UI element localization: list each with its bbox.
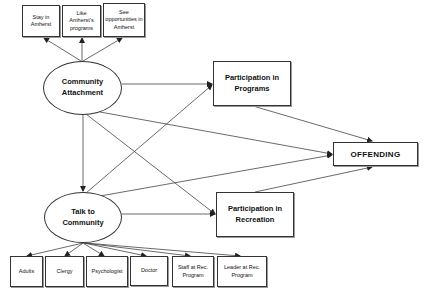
indicator-like-amherst-programs: Like Amherst's programs xyxy=(62,5,101,37)
indicator-label: Stay in Amherst xyxy=(31,14,51,29)
indicator-psychologist: Psychologist xyxy=(86,256,128,287)
mediator-participation-recreation: Participation in Recreation xyxy=(216,192,294,237)
mediator-label: Participation in Programs xyxy=(225,73,279,94)
edge-attach-see xyxy=(83,38,122,61)
indicator-leader-rec-program: Leader at Rec. Program xyxy=(217,256,267,287)
edge-talk-offending xyxy=(100,155,332,196)
indicator-staff-rec-program: Staff at Rec. Program xyxy=(172,256,214,287)
indicator-clergy: Clergy xyxy=(45,256,84,287)
indicator-label: Clergy xyxy=(57,268,73,275)
indicator-label: See opportunities in Amherst xyxy=(105,9,142,31)
indicator-stay-in-amherst: Stay in Amherst xyxy=(22,5,60,37)
latent-talk-to-community: Talk to Community xyxy=(44,192,122,243)
mediator-label: Participation in Recreation xyxy=(228,204,282,225)
edge-talk-leader xyxy=(85,243,240,256)
outcome-label: OFFENDING xyxy=(351,150,401,159)
indicator-label: Doctor xyxy=(141,267,157,274)
edge-programs-offending xyxy=(253,106,372,141)
indicator-label: Psychologist xyxy=(92,268,123,275)
indicator-label: Adults xyxy=(19,268,34,275)
indicator-see-opportunities: See opportunities in Amherst xyxy=(103,3,145,37)
indicator-label: Like Amherst's programs xyxy=(64,10,99,32)
indicator-label: Leader at Rec. Program xyxy=(224,264,260,279)
edge-recreation-offending xyxy=(255,167,372,192)
indicator-adults: Adults xyxy=(10,256,43,287)
mediator-participation-programs: Participation in Programs xyxy=(213,61,291,106)
edge-attach-stay xyxy=(44,38,81,61)
indicator-doctor: Doctor xyxy=(130,256,168,286)
indicator-label: Staff at Rec. Program xyxy=(178,264,208,279)
latent-community-attachment: Community Attachment xyxy=(43,61,122,115)
outcome-offending: OFFENDING xyxy=(333,142,418,166)
latent-label: Talk to Community xyxy=(62,207,103,229)
edge-attach-offending xyxy=(100,112,332,154)
latent-label: Community Attachment xyxy=(62,77,103,99)
